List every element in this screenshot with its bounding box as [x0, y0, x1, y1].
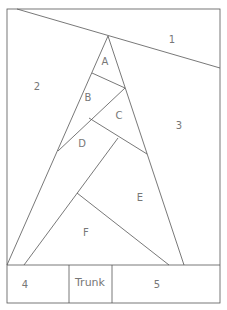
tree-right-edge [108, 36, 184, 265]
label-piece-b: B [85, 92, 92, 103]
line-d-e [24, 138, 118, 265]
label-piece-c: C [116, 110, 123, 121]
label-trunk: Trunk [74, 276, 106, 289]
label-piece-a: A [102, 56, 109, 67]
label-piece-f: F [83, 227, 89, 238]
tree-pattern-diagram: 1 2 3 4 5 Trunk A B C D E F [0, 0, 227, 310]
label-piece-d: D [78, 138, 86, 149]
region-1-boundary [17, 9, 220, 68]
tree-left-edge [7, 36, 108, 265]
line-c-d [89, 118, 147, 154]
label-region-2: 2 [34, 81, 40, 92]
label-piece-e: E [137, 192, 143, 203]
label-region-5: 5 [154, 279, 160, 290]
line-a-b [92, 73, 125, 88]
label-region-4: 4 [22, 279, 28, 290]
label-region-1: 1 [169, 34, 175, 45]
label-region-3: 3 [176, 120, 182, 131]
line-e-f [77, 193, 169, 265]
